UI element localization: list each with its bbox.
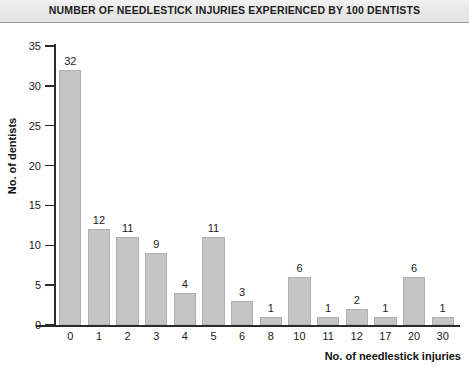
bar	[88, 229, 110, 325]
x-axis-title: No. of needlestick injuries	[325, 350, 461, 362]
y-axis-title: No. of dentists	[6, 96, 18, 216]
y-axis-tick	[45, 125, 55, 127]
y-axis-tick-label: 0	[0, 319, 41, 331]
bar	[260, 317, 282, 325]
bar	[346, 309, 368, 325]
y-axis-tick	[45, 245, 55, 247]
y-axis-tick-label: 10	[0, 239, 41, 251]
chart-figure: NUMBER OF NEEDLESTICK INJURIES EXPERIENC…	[0, 0, 469, 371]
bar-value-label: 1	[368, 302, 402, 314]
y-axis-tick	[45, 205, 55, 207]
bar	[116, 237, 138, 325]
bar-value-label: 1	[254, 302, 288, 314]
bar	[374, 317, 396, 325]
x-axis-tick-label: 30	[424, 330, 462, 342]
y-axis-tick	[45, 324, 55, 326]
bar	[202, 237, 224, 325]
bar-value-label: 11	[196, 222, 230, 234]
chart-title: NUMBER OF NEEDLESTICK INJURIES EXPERIENC…	[0, 4, 469, 16]
y-axis-tick	[45, 45, 55, 47]
bar-value-label: 11	[110, 222, 144, 234]
bar-value-label: 4	[168, 278, 202, 290]
y-axis-tick-label: 35	[0, 40, 41, 52]
bar	[432, 317, 454, 325]
y-axis-tick-label: 30	[0, 80, 41, 92]
bar	[231, 301, 253, 325]
y-axis-tick-label: 5	[0, 279, 41, 291]
bar-value-label: 6	[282, 262, 316, 274]
y-axis-tick	[45, 85, 55, 87]
bar	[288, 277, 310, 325]
bar-value-label: 3	[225, 286, 259, 298]
bar-value-label: 32	[53, 55, 87, 67]
bar	[59, 70, 81, 325]
y-axis-tick	[45, 284, 55, 286]
title-divider	[0, 22, 469, 23]
y-axis-tick	[45, 165, 55, 167]
bar-value-label: 6	[397, 262, 431, 274]
bar	[174, 293, 196, 325]
x-axis-line	[36, 325, 460, 327]
bar-value-label: 1	[426, 302, 460, 314]
bar	[317, 317, 339, 325]
bar	[145, 253, 167, 325]
bar	[403, 277, 425, 325]
bar-value-label: 9	[139, 238, 173, 250]
